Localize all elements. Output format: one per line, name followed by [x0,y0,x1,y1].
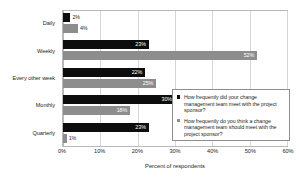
bar-value-label: 30% [162,95,173,104]
legend-entry-series-1: How frequently do you think a change man… [177,118,285,138]
bar-value-label: 25% [143,79,154,88]
x-tick-label: 60% [282,148,293,154]
bar-value-label: 22% [132,68,143,77]
legend-swatch-icon-series-0 [177,95,180,98]
bar-chart: 2%4%23%52%22%25%30%18%23%1% DailyWeeklyE… [0,0,299,181]
bar-monthly-series-1: 18% [63,106,130,115]
bar-weekly-series-1: 52% [63,51,257,60]
bar-monthly-series-0: 30% [63,95,175,104]
legend-label-series-0: How frequently did your change managemen… [184,94,277,113]
x-tick-label: 10% [94,148,105,154]
y-axis-label-quarterly: Quarterly [32,130,55,136]
y-axis-category-labels: DailyWeeklyEvery other weekMonthlyQuarte… [0,10,59,147]
x-tick-label: 40% [207,148,218,154]
bar-daily-series-0: 2% [63,13,70,22]
bar-value-label: 1% [69,134,77,143]
y-axis-label-weekly: Weekly [37,48,55,54]
bar-group: 23%52% [63,38,287,65]
x-tick-label: 0% [58,148,66,154]
bar-quarterly-series-1: 1% [63,134,67,143]
bar-weekly-series-0: 23% [63,40,149,49]
y-axis-label-daily: Daily [43,20,55,26]
bar-value-label: 18% [117,106,128,115]
bar-value-label: 4% [80,24,88,33]
bar-daily-series-1: 4% [63,24,78,33]
x-tick-label: 20% [132,148,143,154]
bar-group: 2%4% [63,11,287,38]
y-axis-label-every-other-week: Every other week [13,75,55,81]
bar-every-other-week-series-1: 25% [63,79,156,88]
bar-every-other-week-series-0: 22% [63,68,145,77]
x-axis-title: Percent of respondents [62,163,288,169]
x-tick-label: 30% [169,148,180,154]
legend-label-series-1: How frequently do you think a change man… [184,118,276,137]
bar-value-label: 23% [135,40,146,49]
y-axis-label-monthly: Monthly [36,102,55,108]
bar-value-label: 52% [244,51,255,60]
x-tick-label: 50% [245,148,256,154]
bar-value-label: 2% [72,13,80,22]
chart-legend: How frequently did your change managemen… [172,89,290,141]
x-axis-tick-labels: 0%10%20%30%40%50%60% [62,148,288,158]
legend-entry-series-0: How frequently did your change managemen… [177,94,285,114]
bar-value-label: 23% [135,123,146,132]
bar-quarterly-series-0: 23% [63,123,149,132]
legend-swatch-icon-series-1 [177,119,180,122]
